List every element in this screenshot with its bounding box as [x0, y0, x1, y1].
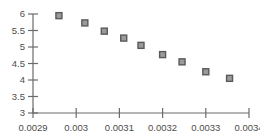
x-tick-label: 0.0033	[191, 122, 220, 133]
y-axis-group: 65.554.543.53	[12, 8, 38, 118]
x-axis-group: 0.00290.0030.00310.00320.00330.0034	[18, 108, 260, 133]
data-point-marker	[203, 69, 209, 75]
data-point-marker	[138, 42, 144, 48]
data-point-marker	[227, 75, 233, 81]
data-point-marker	[56, 13, 62, 19]
y-axis-tick-labels: 65.554.543.53	[12, 8, 25, 118]
y-tick-label: 4.5	[12, 58, 25, 69]
y-tick-label: 5.5	[12, 25, 25, 36]
x-tick-label: 0.0031	[105, 122, 134, 133]
y-tick-label: 3	[20, 107, 25, 118]
y-tick-label: 6	[20, 8, 25, 19]
data-point-marker	[160, 52, 166, 58]
plot-area: 65.554.543.53 0.00290.0030.00310.00320.0…	[0, 0, 260, 137]
y-tick-label: 5	[20, 41, 25, 52]
x-tick-label: 0.0032	[148, 122, 177, 133]
data-point-marker	[101, 28, 107, 34]
y-tick-label: 3.5	[12, 91, 25, 102]
data-point-marker	[121, 35, 127, 41]
x-tick-label: 0.003	[64, 122, 88, 133]
scatter-chart: 65.554.543.53 0.00290.0030.00310.00320.0…	[0, 0, 260, 137]
data-point-marker	[179, 59, 185, 65]
x-tick-label: 0.0029	[18, 122, 47, 133]
x-tick-label: 0.0034	[234, 122, 260, 133]
data-point-markers	[56, 13, 233, 82]
x-axis-tick-labels: 0.00290.0030.00310.00320.00330.0034	[18, 122, 260, 133]
data-point-marker	[82, 20, 88, 26]
y-tick-label: 4	[20, 74, 25, 85]
